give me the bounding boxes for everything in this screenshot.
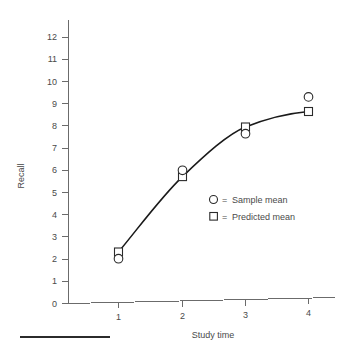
sample-mean-point-3: [241, 129, 250, 138]
sample-mean-markers: [114, 93, 313, 263]
y-tick-label-10: 10: [47, 77, 57, 87]
y-tick-label-12: 12: [47, 32, 57, 42]
y-tick-label-3: 3: [52, 232, 57, 242]
legend-square-icon: [210, 213, 218, 221]
predicted-mean-point-4: [305, 108, 313, 116]
x-tick-label-3: 3: [243, 310, 248, 320]
y-tick-label-5: 5: [52, 188, 57, 198]
y-tick-label-7: 7: [52, 143, 57, 153]
predicted-mean-curve: [119, 112, 309, 253]
y-tick-label-1: 1: [52, 276, 57, 286]
y-tick-label-11: 11: [48, 54, 57, 64]
legend-equals-predicted: =: [222, 212, 227, 222]
y-axis-tick-labels: 0 1 2 3 4 5 6 7 8 9 10 11 12: [47, 32, 57, 308]
x-axis-tick-labels: 1 2 3 4: [116, 308, 311, 322]
y-axis-ticks: [62, 37, 69, 303]
sample-mean-point-1: [114, 254, 123, 263]
y-tick-label-4: 4: [52, 210, 57, 220]
legend-circle-icon: [210, 196, 218, 204]
y-tick-label-9: 9: [52, 99, 57, 109]
legend-equals-sample: =: [222, 195, 227, 205]
x-tick-label-1: 1: [116, 312, 121, 322]
x-axis-line: [69, 298, 336, 304]
legend-label-sample-mean: Sample mean: [232, 195, 288, 205]
y-tick-label-2: 2: [52, 254, 57, 264]
recall-study-time-chart: 0 1 2 3 4 5 6 7 8 9 10 11 12 1 2 3 4: [0, 0, 351, 350]
x-tick-label-2: 2: [180, 311, 185, 321]
y-tick-label-8: 8: [52, 121, 57, 131]
footer-divider-rule: [20, 336, 110, 338]
x-axis-ticks: [119, 298, 309, 308]
sample-mean-point-2: [178, 166, 187, 175]
y-tick-label-0: 0: [52, 299, 57, 309]
x-axis-title: Study time: [192, 330, 235, 340]
y-tick-label-6: 6: [52, 165, 57, 175]
chart-legend: = Sample mean = Predicted mean: [210, 195, 296, 222]
legend-label-predicted-mean: Predicted mean: [232, 212, 295, 222]
x-tick-label-4: 4: [306, 308, 311, 318]
y-axis-title: Recall: [16, 163, 26, 188]
chart-figure: 0 1 2 3 4 5 6 7 8 9 10 11 12 1 2 3 4: [0, 0, 351, 350]
sample-mean-point-4: [304, 93, 313, 102]
predicted-mean-markers: [115, 108, 313, 257]
